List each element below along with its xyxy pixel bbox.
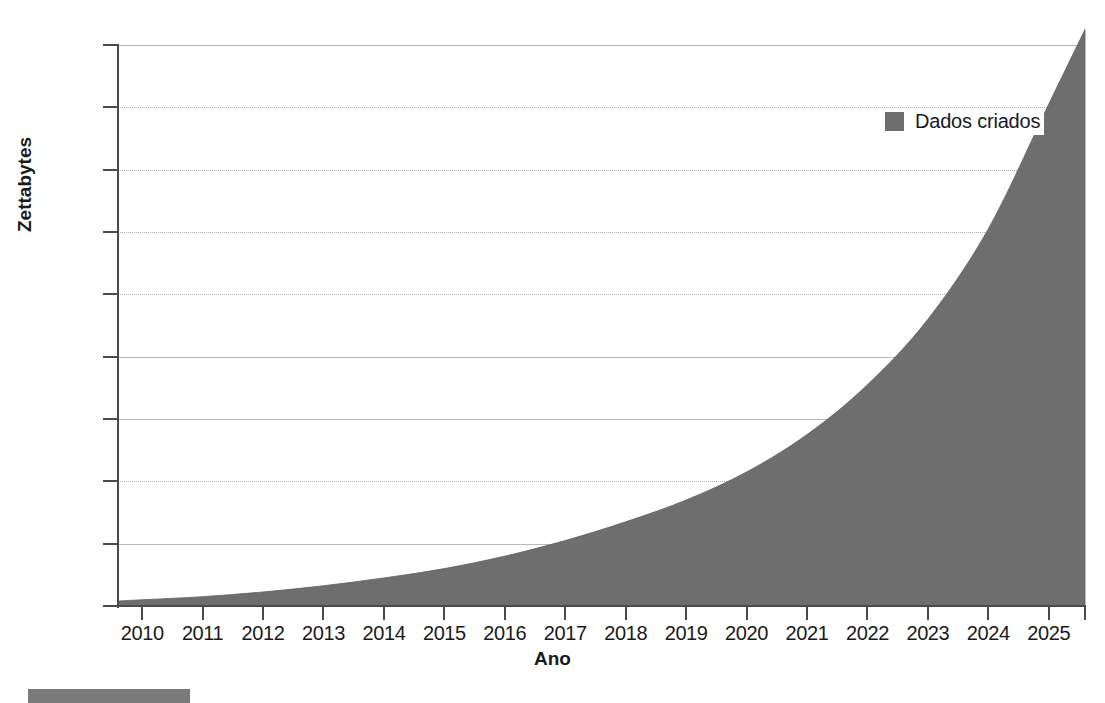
- x-tick-2021: [806, 606, 808, 620]
- square-swatch-icon: [885, 112, 904, 131]
- x-axis-title: Ano: [0, 648, 1105, 670]
- y-tick-140: [103, 169, 118, 171]
- y-tick-160: [103, 106, 118, 108]
- x-tick-2016: [504, 606, 506, 620]
- x-tick-label-2025: 2025: [1009, 622, 1089, 645]
- y-axis-line: [117, 44, 119, 608]
- x-tick-2017: [564, 606, 566, 620]
- legend-label-dados-criados: Dados criados: [915, 110, 1040, 133]
- x-tick-2023: [927, 606, 929, 620]
- x-tick-2010: [141, 606, 143, 620]
- page-footer-bar-artifact: [28, 689, 190, 703]
- chart-legend: Dados criados: [881, 108, 1044, 135]
- x-tick-2013: [322, 606, 324, 620]
- x-tick-2019: [685, 606, 687, 620]
- y-axis-title: Zettabytes: [14, 137, 36, 232]
- y-tick-20: [103, 543, 118, 545]
- chart-figure: 0 20 40 60 80 100 120 140 160 180 201020…: [0, 0, 1105, 703]
- x-tick-2022: [866, 606, 868, 620]
- y-tick-180: [103, 44, 118, 46]
- y-tick-40: [103, 480, 118, 482]
- x-tick-2011: [202, 606, 204, 620]
- x-tick-end: [1084, 606, 1086, 620]
- x-tick-2018: [625, 606, 627, 620]
- x-tick-2025: [1048, 606, 1050, 620]
- y-tick-0: [103, 605, 118, 607]
- x-tick-2015: [443, 606, 445, 620]
- x-tick-2020: [746, 606, 748, 620]
- y-tick-60: [103, 418, 118, 420]
- x-tick-2012: [262, 606, 264, 620]
- x-tick-2024: [987, 606, 989, 620]
- y-tick-100: [103, 293, 118, 295]
- y-tick-120: [103, 231, 118, 233]
- x-tick-2014: [383, 606, 385, 620]
- y-tick-80: [103, 356, 118, 358]
